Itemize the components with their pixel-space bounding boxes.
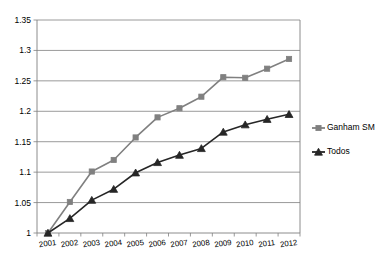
data-point-marker <box>316 125 321 130</box>
data-point-marker <box>155 115 160 120</box>
data-point-marker <box>243 75 248 80</box>
data-point-marker <box>221 75 226 80</box>
data-point-marker <box>265 66 270 71</box>
y-axis-tick-label: 1.15 <box>14 137 31 147</box>
y-axis-tick-label: 1.05 <box>14 198 31 208</box>
data-point-marker <box>89 169 94 174</box>
data-point-marker <box>286 56 291 61</box>
chart-canvas: 11.051.11.151.21.251.31.35 2001200220032… <box>0 0 386 264</box>
y-axis-tick-label: 1.25 <box>14 76 31 86</box>
data-point-marker <box>177 106 182 111</box>
y-axis-tick-label: 1.35 <box>14 15 31 25</box>
data-point-marker <box>111 157 116 162</box>
y-axis-tick-label: 1 <box>26 228 31 238</box>
y-axis-tick-label: 1.2 <box>19 106 31 116</box>
data-point-marker <box>199 94 204 99</box>
data-point-marker <box>133 135 138 140</box>
legend-label: Todos <box>327 146 350 156</box>
data-point-marker <box>67 199 72 204</box>
y-axis-tick-label: 1.3 <box>19 45 31 55</box>
y-axis-tick-label: 1.1 <box>19 167 31 177</box>
line-chart: 11.051.11.151.21.251.31.35 2001200220032… <box>0 0 386 264</box>
legend-label: Ganham SM <box>327 122 375 132</box>
